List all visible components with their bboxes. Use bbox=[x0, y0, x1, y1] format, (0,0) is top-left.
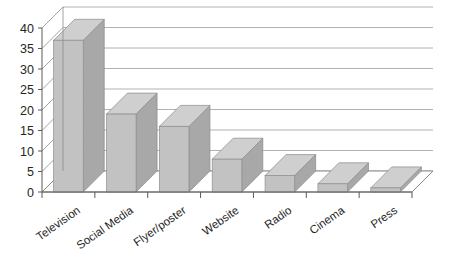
x-category-label: Flyer/poster bbox=[131, 204, 188, 249]
bars bbox=[54, 19, 422, 192]
x-category-label: Website bbox=[200, 204, 241, 238]
y-tick-label: 40 bbox=[20, 22, 34, 36]
x-axis-category-labels: TelevisionSocial MediaFlyer/posterWebsit… bbox=[34, 203, 400, 251]
y-tick-label: 5 bbox=[27, 165, 34, 179]
bar-television bbox=[54, 19, 105, 192]
bar-social-media bbox=[106, 93, 157, 192]
x-category-label: Press bbox=[368, 204, 399, 231]
x-category-label: Radio bbox=[262, 204, 294, 231]
y-tick-label: 30 bbox=[20, 63, 34, 77]
y-tick-label: 10 bbox=[20, 145, 34, 159]
y-tick-label: 0 bbox=[27, 186, 34, 200]
y-tick-label: 35 bbox=[20, 42, 34, 56]
y-tick-label: 15 bbox=[20, 124, 34, 138]
x-category-label: Television bbox=[34, 204, 82, 243]
bar-chart: 0510152025303540 TelevisionSocial MediaF… bbox=[0, 0, 455, 272]
x-category-label: Social Media bbox=[74, 203, 135, 251]
x-category-label: Cinema bbox=[307, 203, 347, 236]
chart-canvas: 0510152025303540 TelevisionSocial MediaF… bbox=[0, 0, 455, 272]
bar-flyer-poster bbox=[159, 105, 210, 192]
y-tick-label: 20 bbox=[20, 104, 34, 118]
y-tick-label: 25 bbox=[20, 83, 34, 97]
y-axis-tick-labels: 0510152025303540 bbox=[20, 22, 34, 200]
